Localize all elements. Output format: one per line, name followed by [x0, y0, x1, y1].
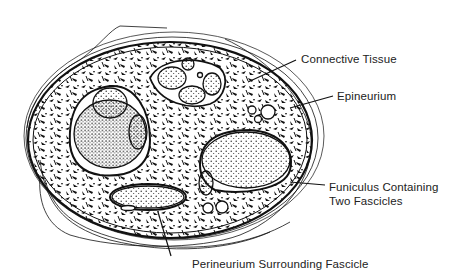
label-connective-tissue: Connective Tissue: [301, 52, 397, 66]
label-perineurium: Perineurium Surrounding Fascicle: [192, 257, 368, 271]
label-funiculus-line2: Two Fascicles: [329, 194, 403, 208]
nerve-cross-section-diagram: Connective Tissue Epineurium Funiculus C…: [0, 0, 461, 279]
nerve-illustration: [0, 0, 461, 279]
label-epineurium: Epineurium: [337, 89, 396, 103]
label-funiculus-line1: Funiculus Containing: [329, 180, 438, 194]
